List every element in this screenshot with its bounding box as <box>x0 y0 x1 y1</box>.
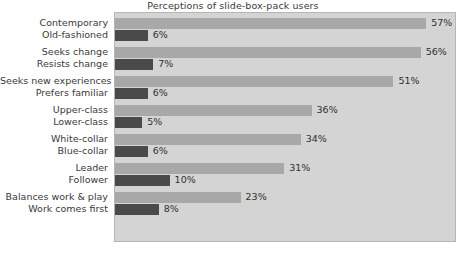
category-label: Work comes first <box>0 203 108 214</box>
bar-value-label: 5% <box>147 116 162 128</box>
bar-blue-collar <box>115 146 148 157</box>
bar-value-label: 10% <box>175 174 196 186</box>
category-label: Upper-class <box>0 104 108 115</box>
bar-value-label: 36% <box>317 104 338 116</box>
category-label: Seeks new experiences <box>0 75 108 86</box>
bar-row: 8% <box>115 204 455 215</box>
bar-row: 56% <box>115 47 455 58</box>
category-label: Resists change <box>0 58 108 69</box>
bar-value-label: 34% <box>306 133 327 145</box>
bar-value-label: 31% <box>289 162 310 174</box>
category-label: Old-fashioned <box>0 29 108 40</box>
bar-value-label: 57% <box>431 17 452 29</box>
category-label: Prefers familiar <box>0 87 108 98</box>
bar-row: 5% <box>115 117 455 128</box>
category-label: Contemporary <box>0 17 108 28</box>
bar-row: 6% <box>115 88 455 99</box>
bar-follower <box>115 175 170 186</box>
category-label: Lower-class <box>0 116 108 127</box>
bar-row: 36% <box>115 105 455 116</box>
bar-value-label: 23% <box>246 191 267 203</box>
bar-resists-change <box>115 59 153 70</box>
category-label: White-collar <box>0 133 108 144</box>
bar-lower-class <box>115 117 142 128</box>
bar-value-label: 6% <box>153 29 168 41</box>
bar-value-label: 7% <box>158 58 173 70</box>
bar-value-label: 51% <box>398 75 419 87</box>
bar-prefers-familiar <box>115 88 148 99</box>
bar-row: 34% <box>115 134 455 145</box>
category-label: Seeks change <box>0 46 108 57</box>
bar-work-comes-first <box>115 204 159 215</box>
bar-row: 51% <box>115 76 455 87</box>
bar-contemporary <box>115 18 426 29</box>
bar-value-label: 8% <box>164 203 179 215</box>
category-label-column: ContemporaryOld-fashionedSeeks changeRes… <box>0 12 111 242</box>
bar-value-label: 6% <box>153 145 168 157</box>
plot-area: 57%6%56%7%51%6%36%5%34%6%31%10%23%8% <box>114 12 456 242</box>
bar-leader <box>115 163 284 174</box>
bar-value-label: 6% <box>153 87 168 99</box>
bar-old-fashioned <box>115 30 148 41</box>
bar-row: 6% <box>115 30 455 41</box>
bar-row: 31% <box>115 163 455 174</box>
bar-row: 10% <box>115 175 455 186</box>
bar-white-collar <box>115 134 301 145</box>
bar-row: 7% <box>115 59 455 70</box>
category-label: Balances work & play <box>0 191 108 202</box>
bar-row: 6% <box>115 146 455 157</box>
bar-value-label: 56% <box>426 46 447 58</box>
category-label: Blue-collar <box>0 145 108 156</box>
bar-seeks-new-experiences <box>115 76 393 87</box>
category-label: Follower <box>0 174 108 185</box>
chart-container: Perceptions of slide-box-pack users Cont… <box>0 0 466 254</box>
bar-row: 57% <box>115 18 455 29</box>
bar-balances-work-play <box>115 192 241 203</box>
category-label: Leader <box>0 162 108 173</box>
bar-row: 23% <box>115 192 455 203</box>
chart-title: Perceptions of slide-box-pack users <box>0 0 466 12</box>
bar-upper-class <box>115 105 312 116</box>
bar-seeks-change <box>115 47 421 58</box>
